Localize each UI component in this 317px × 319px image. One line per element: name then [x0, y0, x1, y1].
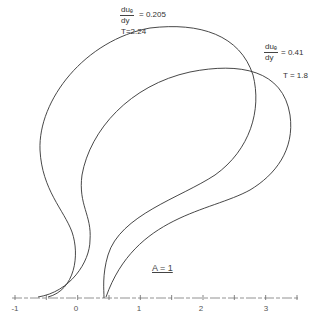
x-tick-label: 2 — [199, 304, 203, 313]
curve1-frac-numerator: duₑ — [120, 6, 134, 16]
x-tick-label: 1 — [137, 304, 141, 313]
curve1-t-label: T=2.24 — [121, 28, 146, 36]
parameter-a-label: A = 1 — [152, 263, 173, 273]
curve1-derivative-value: = 0.205 — [139, 10, 166, 19]
x-tick-label: 3 — [264, 304, 268, 313]
curve2-derivative-fraction: duₑ dy — [264, 43, 278, 62]
curve2-derivative-value: = 0.41 — [281, 48, 303, 57]
curve1-frac-denominator: dy — [120, 16, 134, 25]
curve2-frac-denominator: dy — [264, 53, 278, 62]
curve2-t-label: T = 1.8 — [283, 72, 308, 80]
x-tick-label: -1 — [11, 304, 18, 313]
x-tick-label: 0 — [74, 304, 78, 313]
curve2-frac-numerator: duₑ — [264, 43, 278, 53]
curve-t-2-24 — [40, 27, 256, 298]
x-axis-ticks — [15, 295, 297, 300]
curve1-derivative-fraction: duₑ dy — [120, 6, 134, 25]
